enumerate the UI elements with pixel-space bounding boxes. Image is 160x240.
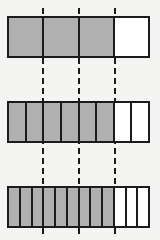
cell-shaded [56,188,68,226]
cell-shaded [91,188,103,226]
bar-eighths [7,101,150,143]
cell-unshaded [132,103,148,141]
cell-shaded [9,188,21,226]
bar-fourths [7,16,150,58]
cell-unshaded [115,188,127,226]
cell-shaded [44,188,56,226]
cell-shaded [27,103,45,141]
cell-shaded [103,188,115,226]
cell-unshaded [138,188,148,226]
cell-unshaded [115,18,148,56]
cell-shaded [97,103,115,141]
cell-shaded [44,103,62,141]
cell-shaded [80,103,98,141]
cell-shaded [9,18,44,56]
bar-twelfths [7,186,150,228]
cell-shaded [33,188,45,226]
cell-shaded [9,103,27,141]
cell-shaded [80,18,115,56]
cell-shaded [80,188,92,226]
cell-shaded [44,18,79,56]
cell-shaded [21,188,33,226]
fraction-bar-figure [0,0,160,240]
cell-shaded [68,188,80,226]
cell-unshaded [127,188,139,226]
cell-shaded [62,103,80,141]
cell-unshaded [115,103,133,141]
